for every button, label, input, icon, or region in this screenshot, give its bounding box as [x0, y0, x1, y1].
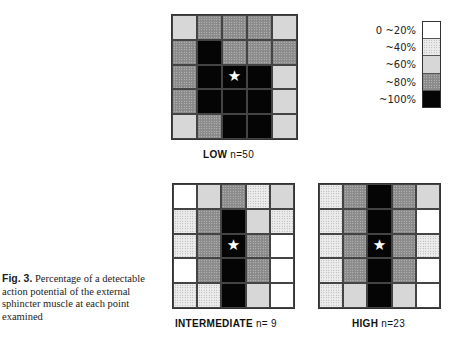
star-icon: ★ [228, 69, 241, 84]
sample-size: n= 9 [256, 318, 277, 329]
heatmap-cell [272, 15, 297, 40]
heatmap-cell [197, 89, 222, 114]
heatmap-cell [367, 209, 391, 234]
legend-swatch-60 [423, 56, 440, 73]
sample-size: n=23 [381, 318, 405, 329]
legend-labels: 0 ~20% ~40% ~60% ~80% ~100% [350, 22, 416, 108]
legend-swatches [422, 21, 441, 108]
caption-label: Fig. 3. [2, 272, 32, 284]
heatmap-cell [172, 40, 197, 65]
heatmap-cell [246, 184, 270, 209]
legend-label-80: ~80% [350, 74, 416, 91]
heatmap-cell: ★ [222, 65, 247, 90]
heatmap-cell [197, 283, 221, 308]
figure-caption: Fig. 3. Percentage of a detectable actio… [2, 272, 162, 323]
heatmap-cell [270, 209, 294, 234]
heatmap-cell [246, 234, 270, 259]
heatmap-cell [416, 283, 440, 308]
star-icon: ★ [227, 238, 240, 253]
heatmap-cell [416, 258, 440, 283]
heatmap-cell [247, 40, 272, 65]
heatmap-cell [416, 209, 440, 234]
heatmap-cell [343, 283, 367, 308]
heatmap-cell [367, 283, 391, 308]
legend-swatch-80 [423, 74, 440, 91]
heatmap-cell [272, 114, 297, 139]
heatmap-cell [247, 114, 272, 139]
heatmap-cell [319, 184, 343, 209]
heatmap-cell [246, 258, 270, 283]
heatmap-cell [222, 15, 247, 40]
heatmap-cell [319, 209, 343, 234]
intermediate-panel-label: INTERMEDIATE n= 9 [175, 318, 277, 329]
sample-size: n=50 [230, 149, 254, 160]
heatmap-cell [272, 65, 297, 90]
heatmap-cell [173, 209, 197, 234]
heatmap-cell [392, 209, 416, 234]
heatmap-cell [343, 258, 367, 283]
heatmap-cell [246, 209, 270, 234]
panel-name: INTERMEDIATE [175, 318, 253, 329]
heatmap-cell [197, 15, 222, 40]
heatmap-cell [197, 114, 222, 139]
heatmap-cell [392, 234, 416, 259]
heatmap-cell: ★ [221, 234, 245, 259]
heatmap-cell [392, 283, 416, 308]
heatmap-cell [172, 114, 197, 139]
panel-name: LOW [203, 149, 227, 160]
intermediate-heatmap-grid: ★ [172, 183, 295, 309]
low-panel-label: LOW n=50 [203, 149, 254, 160]
heatmap-cell [270, 258, 294, 283]
heatmap-cell [247, 15, 272, 40]
heatmap-cell: ★ [367, 234, 391, 259]
heatmap-cell [222, 89, 247, 114]
heatmap-cell [172, 65, 197, 90]
heatmap-cell [416, 234, 440, 259]
heatmap-cell [221, 283, 245, 308]
heatmap-cell [272, 40, 297, 65]
heatmap-cell [197, 65, 222, 90]
heatmap-cell [270, 283, 294, 308]
heatmap-cell [173, 283, 197, 308]
heatmap-cell [319, 258, 343, 283]
legend-swatch-20 [423, 22, 440, 39]
heatmap-cell [343, 234, 367, 259]
heatmap-cell [197, 258, 221, 283]
heatmap-cell [173, 258, 197, 283]
legend-label-60: ~60% [350, 56, 416, 73]
heatmap-cell [319, 283, 343, 308]
heatmap-cell [272, 89, 297, 114]
legend-swatch-40 [423, 39, 440, 56]
heatmap-cell [197, 234, 221, 259]
heatmap-cell [173, 234, 197, 259]
heatmap-cell [319, 234, 343, 259]
star-icon: ★ [373, 238, 386, 253]
heatmap-cell [343, 209, 367, 234]
heatmap-cell [172, 89, 197, 114]
heatmap-cell [221, 258, 245, 283]
legend-label-40: ~40% [350, 39, 416, 56]
low-heatmap-grid: ★ [171, 14, 298, 140]
legend-swatch-100 [423, 91, 440, 107]
heatmap-cell [222, 40, 247, 65]
high-heatmap-grid: ★ [318, 183, 441, 309]
legend-label-20: 0 ~20% [350, 22, 416, 39]
heatmap-cell [247, 65, 272, 90]
heatmap-cell [197, 184, 221, 209]
heatmap-cell [197, 40, 222, 65]
heatmap-cell [270, 184, 294, 209]
heatmap-cell [343, 184, 367, 209]
panel-name: HIGH [352, 318, 378, 329]
heatmap-cell [392, 184, 416, 209]
heatmap-cell [197, 209, 221, 234]
high-panel-label: HIGH n=23 [352, 318, 405, 329]
heatmap-cell [222, 114, 247, 139]
heatmap-cell [221, 184, 245, 209]
heatmap-cell [270, 234, 294, 259]
heatmap-cell [416, 184, 440, 209]
heatmap-cell [246, 283, 270, 308]
heatmap-cell [367, 184, 391, 209]
heatmap-cell [247, 89, 272, 114]
heatmap-cell [173, 184, 197, 209]
heatmap-cell [392, 258, 416, 283]
